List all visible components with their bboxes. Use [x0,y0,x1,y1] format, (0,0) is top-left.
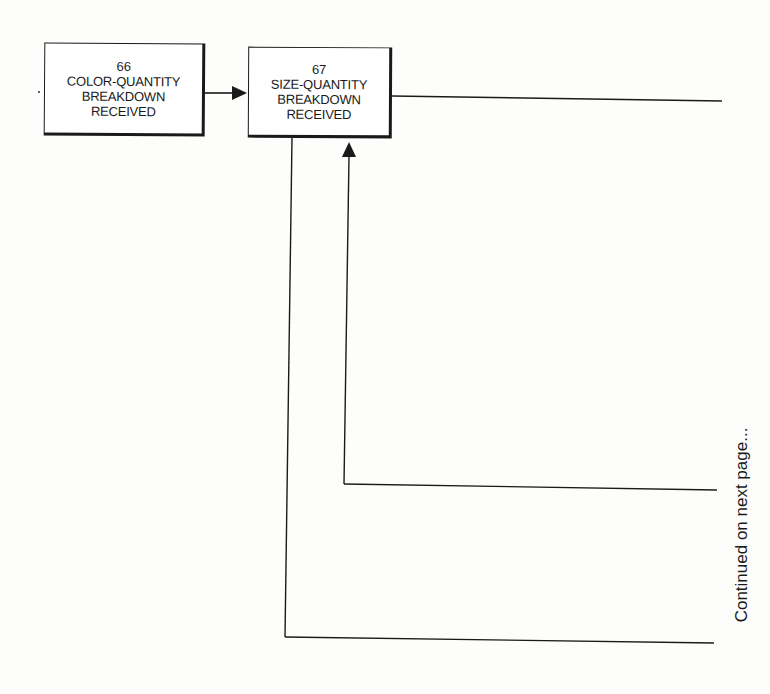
node-label-line: SIZE-QUANTITY [271,76,367,92]
arrowhead-right-icon [232,86,247,100]
continued-on-next-page-label: Continued on next page... [732,428,752,623]
scan-speck [38,91,40,93]
node-67-size-quantity-breakdown-received: 67 SIZE-QUANTITY BREAKDOWN RECEIVED [248,47,392,139]
flowchart-canvas: 66 COLOR-QUANTITY BREAKDOWN RECEIVED 67 … [0,0,770,694]
line-67-to-next-page-top [392,96,722,101]
arrow-66-to-67 [205,86,247,100]
node-label-line: BREAKDOWN [82,88,166,104]
node-label-line: RECEIVED [286,106,351,121]
node-label-line: BREAKDOWN [277,91,361,106]
node-label-line: COLOR-QUANTITY [67,73,181,89]
node-number: 66 [117,58,131,73]
node-66-color-quantity-breakdown-received: 66 COLOR-QUANTITY BREAKDOWN RECEIVED [44,42,206,136]
arrow-next-page-middle-to-67 [342,142,717,490]
node-number: 67 [312,61,326,76]
arrowhead-up-icon [342,142,356,157]
node-label-line: RECEIVED [91,103,156,118]
line-67-to-next-page-bottom [285,138,714,643]
